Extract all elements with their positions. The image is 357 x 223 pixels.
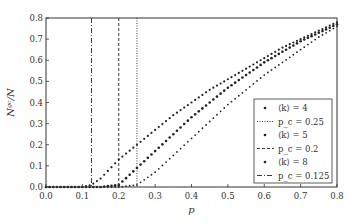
y-tick-label: 0.3 [29,119,43,129]
y-tick-label: 0.0 [29,182,43,192]
legend-label: ⟨k⟩ = 5 [278,130,308,140]
y-axis-label: Nᵍᶜ/N [5,87,16,118]
chart: 0.00.10.20.30.40.50.60.70.80.00.10.20.30… [0,0,357,223]
legend-label: ⟨k⟩ = 8 [278,157,308,167]
x-tick-label: 0.8 [330,191,344,201]
legend-label: p_c = 0.125 [278,171,329,182]
legend-label: p_c = 0.2 [278,144,319,155]
x-tick-label: 0.5 [221,191,235,201]
legend-label: p_c = 0.25 [278,117,324,128]
legend-marker-icon [264,134,267,137]
y-tick-label: 0.8 [29,13,43,23]
y-tick-label: 0.6 [29,55,43,65]
legend-label: ⟨k⟩ = 4 [278,103,308,113]
y-tick-label: 0.5 [29,76,43,86]
y-tick-label: 0.7 [29,34,43,44]
y-tick-label: 0.2 [29,140,43,150]
y-tick-label: 0.4 [29,98,43,108]
x-axis-label: p [188,204,195,215]
x-tick-label: 0.4 [185,191,199,201]
x-tick-label: 0.1 [76,191,90,201]
y-tick-label: 0.1 [29,161,43,171]
x-tick-label: 0.2 [112,191,126,201]
legend: ⟨k⟩ = 4p_c = 0.25⟨k⟩ = 5p_c = 0.2⟨k⟩ = 8… [254,99,332,183]
legend-marker-icon [264,161,267,164]
legend-marker-icon [264,107,267,110]
x-tick-label: 0.7 [294,191,308,201]
x-tick-label: 0.3 [148,191,162,201]
x-tick-label: 0.0 [39,191,53,201]
x-tick-label: 0.6 [257,191,271,201]
